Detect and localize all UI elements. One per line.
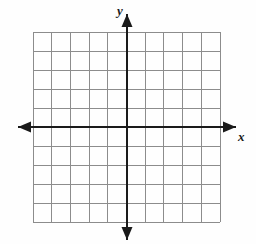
x-axis-arrow-left [18, 122, 31, 133]
axis-lines [18, 14, 236, 240]
x-axis-arrow-right [223, 122, 236, 133]
y-axis-arrow-up [122, 14, 133, 27]
x-axis-label: x [238, 130, 245, 143]
coordinate-grid-figure: y x [0, 0, 256, 244]
y-axis-arrow-down [122, 227, 133, 240]
y-axis-label: y [117, 4, 123, 17]
coordinate-plane [0, 0, 256, 244]
